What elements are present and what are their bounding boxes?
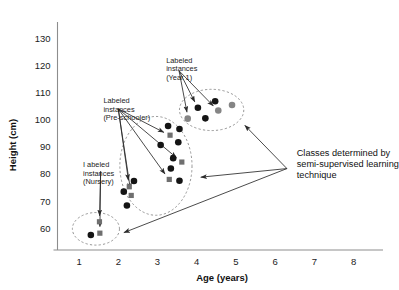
data-point-circle-year-1 — [229, 102, 236, 109]
x-axis-tick-labels: 12345678 — [76, 256, 356, 267]
y-tick-label: 120 — [35, 60, 51, 71]
data-point-circle-pre-schooler — [120, 188, 127, 195]
x-tick-label: 7 — [312, 256, 317, 267]
data-point-square-pre-schooler — [129, 193, 134, 198]
scatter-plot: 60708090100110120130 12345678 Height (cm… — [0, 0, 399, 290]
x-axis-title: Age (years) — [196, 272, 248, 283]
y-axis-tick-labels: 60708090100110120130 — [35, 33, 51, 234]
data-point-circle-pre-schooler — [165, 123, 172, 130]
annotation-labeled-preschooler: Labeledinstances(Pre-schooler) — [103, 96, 150, 122]
data-point-circle-year-1 — [212, 98, 219, 105]
annotation-line: (Pre-schooler) — [103, 113, 150, 122]
data-point-circle-pre-schooler — [175, 139, 182, 146]
annotation-line: technique — [297, 170, 337, 180]
annotation-line: (Year 1) — [166, 73, 192, 82]
data-point-circle-year-1 — [215, 107, 222, 114]
data-point-circle-pre-schooler — [157, 142, 164, 149]
data-point-circle-pre-schooler — [124, 202, 131, 209]
data-point-square-nursery — [97, 219, 102, 224]
annotation-labels: I abeledinstances(Nursery)Labeledinstanc… — [83, 56, 399, 186]
leader-line-classes-callout — [124, 169, 287, 233]
x-tick-label: 4 — [194, 256, 199, 267]
x-tick-label: 8 — [351, 256, 356, 267]
annotation-labeled-nursery: I abeledinstances(Nursery) — [83, 160, 115, 186]
leader-line-classes-callout — [201, 169, 287, 178]
data-point-square-pre-schooler — [167, 177, 172, 182]
y-tick-label: 130 — [35, 33, 51, 44]
y-tick-label: 90 — [40, 141, 51, 152]
axes-group — [54, 22, 384, 250]
data-point-circle-pre-schooler — [170, 155, 177, 162]
data-point-square-pre-schooler — [167, 133, 172, 138]
y-tick-label: 80 — [40, 168, 51, 179]
annotation-line: semi-supervised learning — [297, 159, 399, 169]
data-point-circle-year-1 — [202, 115, 209, 122]
data-point-circle-nursery — [88, 232, 95, 239]
data-point-circle-year-1 — [195, 104, 202, 111]
data-point-circle-pre-schooler — [168, 165, 175, 172]
y-tick-label: 70 — [40, 196, 51, 207]
y-tick-label: 110 — [35, 87, 50, 98]
chart-figure: 60708090100110120130 12345678 Height (cm… — [0, 0, 399, 290]
data-point-square-pre-schooler — [127, 184, 132, 189]
annotation-line: Classes determined by — [297, 148, 391, 158]
y-tick-label: 60 — [40, 223, 51, 234]
x-tick-label: 5 — [233, 256, 238, 267]
data-point-square-nursery — [97, 231, 102, 236]
x-tick-label: 3 — [155, 256, 160, 267]
y-tick-label: 100 — [35, 114, 51, 125]
data-point-square-pre-schooler — [179, 159, 184, 164]
y-axis-title: Height (cm) — [7, 119, 18, 171]
x-tick-label: 6 — [273, 256, 278, 267]
annotation-classes-callout: Classes determined bysemi-supervised lea… — [297, 148, 399, 180]
data-point-circle-year-1 — [184, 115, 191, 122]
data-point-circle-pre-schooler — [131, 178, 138, 185]
x-tick-label: 1 — [76, 256, 81, 267]
x-tick-label: 2 — [116, 256, 121, 267]
data-point-circle-pre-schooler — [176, 177, 183, 184]
cluster-ellipse-year-1 — [179, 89, 243, 130]
data-point-circle-pre-schooler — [176, 126, 183, 133]
leader-line-classes-callout — [245, 125, 287, 168]
annotation-line: (Nursery) — [83, 177, 114, 186]
annotation-labeled-year1: Labeledinstances(Year 1) — [166, 56, 198, 82]
cluster-ellipse-nursery — [72, 213, 119, 246]
